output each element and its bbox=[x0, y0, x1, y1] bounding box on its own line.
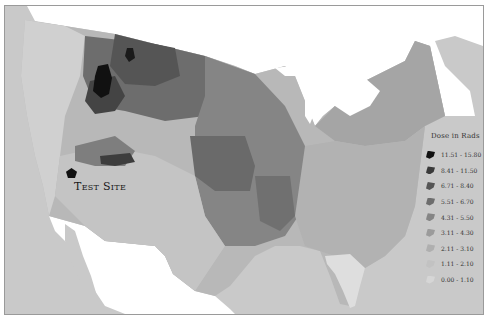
legend-item: 4.31 - 5.50 bbox=[423, 209, 484, 225]
legend-item: 1.11 - 2.10 bbox=[423, 256, 484, 272]
legend-item: 8.41 - 11.50 bbox=[423, 163, 484, 179]
legend-label: 0.00 - 1.10 bbox=[441, 276, 474, 283]
legend-swatch-icon bbox=[426, 213, 435, 221]
legend-label: 5.51 - 6.70 bbox=[441, 198, 474, 205]
choropleth-map bbox=[5, 6, 483, 314]
legend-swatch-icon bbox=[426, 229, 435, 237]
legend-swatch-icon bbox=[426, 198, 435, 206]
legend: Dose in Rads 11.51 - 15.80 8.41 - 11.50 … bbox=[423, 132, 484, 287]
legend-label: 8.41 - 11.50 bbox=[441, 167, 477, 174]
legend-label: 3.11 - 4.30 bbox=[441, 229, 474, 236]
legend-title: Dose in Rads bbox=[431, 132, 484, 140]
legend-item: 11.51 - 15.80 bbox=[423, 147, 484, 163]
legend-item: 2.11 - 3.10 bbox=[423, 241, 484, 257]
legend-label: 2.11 - 3.10 bbox=[441, 245, 474, 252]
legend-label: 11.51 - 15.80 bbox=[441, 151, 481, 158]
legend-swatch-icon bbox=[426, 276, 435, 284]
legend-swatch-icon bbox=[426, 260, 435, 268]
legend-item: 3.11 - 4.30 bbox=[423, 225, 484, 241]
legend-label: 4.31 - 5.50 bbox=[441, 214, 474, 221]
legend-swatch-icon bbox=[426, 166, 435, 174]
legend-item: 0.00 - 1.10 bbox=[423, 272, 484, 288]
legend-label: 1.11 - 2.10 bbox=[441, 260, 474, 267]
legend-item: 6.71 - 8.40 bbox=[423, 178, 484, 194]
legend-swatch-icon bbox=[426, 182, 435, 190]
legend-swatch-icon bbox=[426, 244, 435, 252]
map-frame: Test Site Dose in Rads 11.51 - 15.80 8.4… bbox=[4, 5, 484, 315]
legend-item: 5.51 - 6.70 bbox=[423, 194, 484, 210]
legend-label: 6.71 - 8.40 bbox=[441, 182, 474, 189]
legend-swatch-icon bbox=[426, 151, 435, 159]
test-site-label: Test Site bbox=[74, 180, 126, 193]
